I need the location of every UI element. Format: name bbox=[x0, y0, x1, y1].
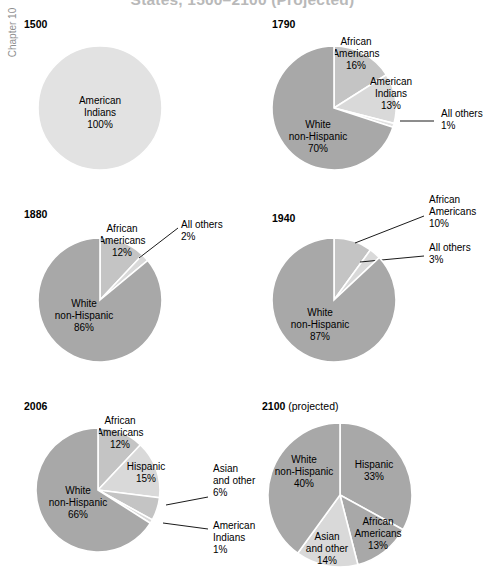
slice-label-line: African bbox=[106, 223, 137, 234]
slice-value: 6% bbox=[213, 487, 228, 498]
panel-year-value: 1940 bbox=[272, 212, 295, 224]
panel-year-value: 1790 bbox=[272, 18, 295, 30]
panel-year-value: 1880 bbox=[24, 208, 47, 220]
panel-year-1500: 1500 bbox=[24, 18, 47, 30]
slice-value: 1% bbox=[441, 120, 456, 131]
panel-year-1790: 1790 bbox=[272, 18, 295, 30]
label-leader-line bbox=[166, 497, 208, 505]
slice-label-line: All others bbox=[441, 108, 483, 119]
label-leader-line bbox=[163, 523, 208, 529]
pie-slice bbox=[38, 46, 162, 170]
slice-value: 1% bbox=[213, 544, 228, 555]
slice-value: 3% bbox=[429, 254, 444, 265]
slice-label-line: All others bbox=[429, 242, 471, 253]
slice-label: AfricanAmericans10% bbox=[429, 194, 476, 229]
slice-label-line: African bbox=[104, 415, 135, 426]
slice-value: 10% bbox=[429, 218, 449, 229]
panel-year-1880: 1880 bbox=[24, 208, 47, 220]
panel-year-1940: 1940 bbox=[272, 212, 295, 224]
panel-year-value: 2100 bbox=[262, 400, 285, 412]
label-leader-line bbox=[355, 216, 424, 243]
panel-year-2100: 2100 (projected) bbox=[262, 400, 338, 412]
slice-label-line: American bbox=[213, 520, 255, 531]
chapter-tab-label: Chapter 10 bbox=[7, 0, 18, 68]
page-title: States, 1500–2100 (Projected) bbox=[0, 0, 485, 9]
slice-label: All others1% bbox=[441, 108, 483, 131]
slice-label-line: African bbox=[429, 194, 460, 205]
slice-label-line: and other bbox=[213, 475, 256, 486]
slice-label-line: All others bbox=[181, 219, 223, 230]
label-leader-line bbox=[139, 228, 178, 258]
panel-year-value: 2006 bbox=[24, 400, 47, 412]
slice-value: 2% bbox=[181, 231, 196, 242]
slice-label-line: African bbox=[340, 36, 371, 47]
panel-year-note: (projected) bbox=[285, 400, 338, 412]
slice-label: AmericanIndians1% bbox=[213, 520, 255, 555]
slice-label-line: Americans bbox=[429, 206, 476, 217]
slice-label: All others2% bbox=[181, 219, 223, 242]
slice-label-line: Indians bbox=[213, 532, 245, 543]
panel-year-2006: 2006 bbox=[24, 400, 47, 412]
slice-label-line: Asian bbox=[213, 463, 238, 474]
slice-label: All others3% bbox=[429, 242, 471, 265]
slice-label: Asianand other6% bbox=[213, 463, 256, 498]
panel-year-value: 1500 bbox=[24, 18, 47, 30]
